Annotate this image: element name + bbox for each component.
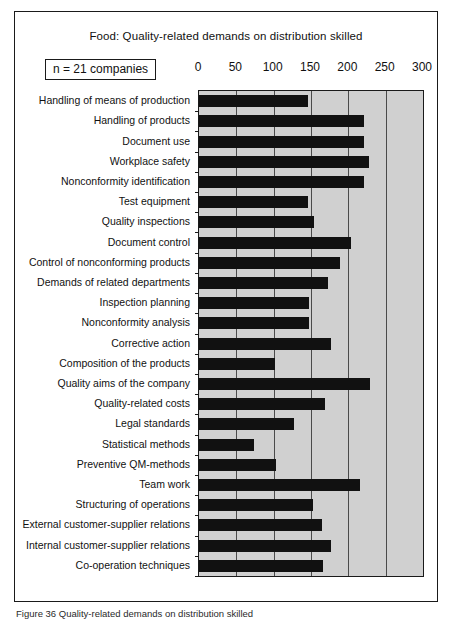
category-tick <box>195 232 199 233</box>
category-label: Structuring of operations <box>76 498 190 510</box>
category-label: Composition of the products <box>59 357 190 369</box>
bar <box>199 176 364 188</box>
category-label: Document control <box>108 236 190 248</box>
bar <box>199 439 254 451</box>
bar <box>199 216 314 228</box>
bar <box>199 317 309 329</box>
x-tick-250: 250 <box>375 60 395 74</box>
bar <box>199 499 313 511</box>
bar <box>199 418 294 430</box>
x-tick-200: 200 <box>337 60 357 74</box>
category-label: Corrective action <box>111 337 190 349</box>
chart-title: Food: Quality-related demands on distrib… <box>15 30 437 42</box>
category-axis-labels: Handling of means of productionHandling … <box>15 90 194 575</box>
category-label: Workplace safety <box>110 155 190 167</box>
category-label: Inspection planning <box>100 296 191 308</box>
bar <box>199 277 328 289</box>
category-tick <box>195 111 199 112</box>
category-tick <box>195 536 199 537</box>
bar <box>199 95 308 107</box>
x-tick-100: 100 <box>263 60 283 74</box>
bar <box>199 136 364 148</box>
x-axis-tick-labels: 050100150200250300 <box>15 60 437 78</box>
bar <box>199 459 276 471</box>
category-tick <box>195 455 199 456</box>
bar <box>199 398 325 410</box>
bar <box>199 196 308 208</box>
bar <box>199 257 340 269</box>
category-tick <box>195 131 199 132</box>
category-tick <box>195 354 199 355</box>
x-tick-50: 50 <box>229 60 242 74</box>
bar <box>199 358 275 370</box>
category-label: Preventive QM-methods <box>77 458 190 470</box>
category-label: Document use <box>122 135 190 147</box>
category-label: Co-operation techniques <box>76 559 190 571</box>
category-label: Legal standards <box>115 417 190 429</box>
category-tick <box>195 253 199 254</box>
category-tick <box>195 334 199 335</box>
bar <box>199 338 331 350</box>
category-tick <box>195 576 199 577</box>
category-label: Statistical methods <box>102 438 190 450</box>
category-label: External customer-supplier relations <box>23 518 191 530</box>
bar <box>199 297 309 309</box>
x-tick-150: 150 <box>300 60 320 74</box>
category-tick <box>195 313 199 314</box>
category-label: Internal customer-supplier relations <box>26 539 190 551</box>
category-tick <box>195 212 199 213</box>
figure-frame: Food: Quality-related demands on distrib… <box>14 11 438 602</box>
category-tick <box>195 556 199 557</box>
category-label: Nonconformity analysis <box>81 316 190 328</box>
x-tick-0: 0 <box>195 60 202 74</box>
category-label: Quality-related costs <box>94 397 190 409</box>
figure-caption: Figure 36 Quality-related demands on dis… <box>16 608 446 620</box>
category-tick <box>195 515 199 516</box>
plot-area <box>198 90 424 577</box>
category-tick <box>195 192 199 193</box>
category-tick <box>195 475 199 476</box>
bar <box>199 519 322 531</box>
category-tick <box>195 495 199 496</box>
bar <box>199 156 369 168</box>
x-tick-300: 300 <box>412 60 432 74</box>
category-label: Nonconformity identification <box>61 175 190 187</box>
gridline-250 <box>386 91 387 576</box>
category-label: Team work <box>139 478 190 490</box>
bar <box>199 378 370 390</box>
category-tick <box>195 152 199 153</box>
bar <box>199 237 351 249</box>
category-label: Test equipment <box>119 195 190 207</box>
category-tick <box>195 414 199 415</box>
category-label: Quality inspections <box>102 215 190 227</box>
category-label: Control of nonconforming products <box>29 256 190 268</box>
category-tick <box>195 172 199 173</box>
bar <box>199 560 323 572</box>
bar <box>199 115 364 127</box>
category-label: Quality aims of the company <box>58 377 190 389</box>
category-tick <box>195 394 199 395</box>
bar <box>199 540 331 552</box>
category-tick <box>195 435 199 436</box>
category-label: Handling of means of production <box>39 94 190 106</box>
category-tick <box>195 293 199 294</box>
category-label: Handling of products <box>94 114 190 126</box>
category-label: Demands of related departments <box>37 276 190 288</box>
category-tick <box>195 273 199 274</box>
category-tick <box>195 374 199 375</box>
bar <box>199 479 360 491</box>
